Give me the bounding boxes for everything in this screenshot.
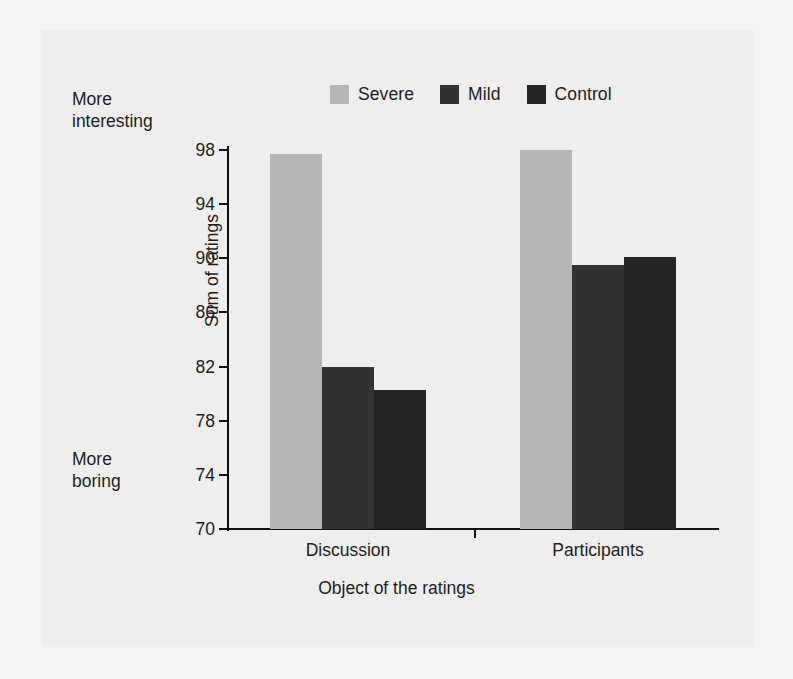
chart-legend: Severe Mild Control xyxy=(330,84,612,105)
bar-discussion-severe[interactable] xyxy=(270,154,322,529)
legend-swatch-severe xyxy=(330,85,349,104)
bar-participants-control[interactable] xyxy=(624,257,676,529)
y-tick-74 xyxy=(219,474,228,476)
legend-label-mild: Mild xyxy=(468,84,501,105)
legend-swatch-control xyxy=(527,85,546,104)
bars-layer xyxy=(229,146,719,529)
y-axis-title: Sum of ratings xyxy=(202,191,223,351)
legend-label-control: Control xyxy=(555,84,612,105)
legend-swatch-mild xyxy=(440,85,459,104)
y-tick-78 xyxy=(219,420,228,422)
bar-participants-mild[interactable] xyxy=(572,265,624,529)
y-tick-label-78: 78 xyxy=(181,410,215,431)
bar-participants-severe[interactable] xyxy=(520,150,572,529)
x-group-label-discussion: Discussion xyxy=(306,540,391,561)
legend-item-severe[interactable]: Severe xyxy=(330,84,414,105)
y-tick-label-82: 82 xyxy=(181,356,215,377)
legend-item-mild[interactable]: Mild xyxy=(440,84,501,105)
chart-figure: Severe Mild Control More interesting Mor… xyxy=(0,0,793,679)
legend-item-control[interactable]: Control xyxy=(527,84,612,105)
legend-label-severe: Severe xyxy=(358,84,414,105)
annotation-more-interesting: More interesting xyxy=(72,88,153,133)
bar-discussion-control[interactable] xyxy=(374,390,426,529)
y-tick-98 xyxy=(219,149,228,151)
x-axis-center-tick xyxy=(474,529,476,538)
annotation-more-boring: More boring xyxy=(72,448,121,493)
x-group-label-participants: Participants xyxy=(552,540,643,561)
y-tick-70 xyxy=(219,528,228,530)
y-tick-label-98: 98 xyxy=(181,140,215,161)
plot-area xyxy=(229,146,719,529)
x-axis-title: Object of the ratings xyxy=(0,578,793,599)
bar-discussion-mild[interactable] xyxy=(322,367,374,529)
y-tick-label-74: 74 xyxy=(181,464,215,485)
y-tick-82 xyxy=(219,366,228,368)
y-tick-label-70: 70 xyxy=(181,519,215,540)
